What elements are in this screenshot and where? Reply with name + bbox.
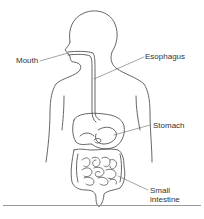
- label-stomach: Stomach: [153, 121, 185, 130]
- label-small-intestine-1: Small: [150, 186, 170, 195]
- bottom-divider: [3, 205, 201, 206]
- small-intestine-coils: [82, 157, 117, 185]
- label-small-intestine-2: intestine: [150, 195, 180, 204]
- digestive-system-illustration: [0, 0, 204, 219]
- label-mouth: Mouth: [16, 56, 38, 65]
- stomach-liver: [73, 113, 125, 149]
- label-esophagus: Esophagus: [145, 52, 185, 61]
- body-outline: [46, 11, 152, 162]
